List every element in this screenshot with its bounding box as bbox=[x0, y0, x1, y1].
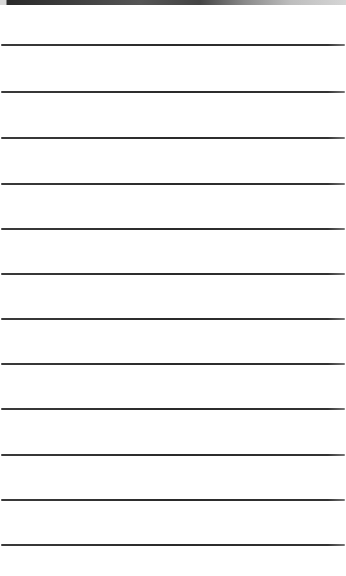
ruled-line bbox=[1, 91, 345, 93]
ruled-line bbox=[1, 273, 345, 275]
ruled-line bbox=[1, 137, 345, 139]
ruled-line bbox=[1, 544, 345, 546]
ruled-line bbox=[1, 183, 345, 185]
ruled-line bbox=[1, 228, 345, 230]
ruled-line bbox=[1, 499, 345, 501]
ruled-line bbox=[1, 363, 345, 365]
ruled-line bbox=[1, 408, 345, 410]
top-edge-band bbox=[0, 0, 346, 5]
ruled-line bbox=[1, 44, 345, 46]
ruled-line bbox=[1, 318, 345, 320]
ruled-line bbox=[1, 454, 345, 456]
